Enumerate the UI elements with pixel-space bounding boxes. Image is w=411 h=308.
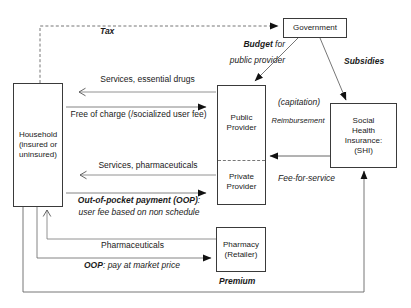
node-household: Household (insured or uninsured) (13, 83, 63, 207)
edge-label-subsidies: Subsidies (344, 57, 384, 67)
node-provider: Public Provider Private Provider (217, 85, 266, 205)
edge-label-free-of-charge: Free of charge (/socialized user fee) (62, 110, 215, 120)
node-government: Government (283, 18, 347, 38)
edge-label-pharmaceuticals: Pharmaceuticals (85, 241, 180, 251)
edge-label-budget: Budget for (215, 40, 285, 50)
edge-label-oop-payment: Out-of-pocket payment (OOP): (66, 196, 212, 206)
edge-label-oop-market-rest: : pay at market price (103, 260, 180, 270)
edge-label-oop-payment-rest: : (198, 195, 200, 205)
edge-label-premium: Premium (219, 277, 255, 287)
edge-subsidies-arrow (320, 38, 346, 100)
edge-label-budget-rest: for (273, 39, 285, 49)
edge-label-capitation: (capitation) (270, 98, 328, 108)
edge-label-services-essential-drugs: Services, essential drugs (75, 75, 220, 85)
node-private-provider: Private Provider (218, 160, 265, 204)
edge-label-user-fee: user fee based on non schedule (66, 208, 212, 218)
flow-diagram: Household (insured or uninsured) Governm… (0, 0, 411, 308)
edge-label-public-provider: public provider (211, 56, 285, 66)
edge-label-tax: Tax (100, 27, 114, 37)
edge-label-oop-payment-bold: Out-of-pocket payment (OOP) (78, 195, 198, 205)
edge-premium-arrow (23, 171, 364, 292)
edge-label-budget-bold: Budget (243, 39, 272, 49)
node-pharmacy: Pharmacy (Retailer) (216, 227, 266, 272)
node-social-health-insurance: Social Health Insurance: (SHI) (330, 103, 397, 168)
edge-label-fee-for-service: Fee-for-service (278, 174, 335, 184)
edge-label-oop-market-bold: OOP (84, 260, 103, 270)
edge-label-services-pharmaceuticals: Services, pharmaceuticals (78, 161, 218, 171)
edge-label-reimbursement: Reimbursement (266, 117, 330, 126)
node-public-provider: Public Provider (218, 86, 265, 160)
edge-label-oop-market: OOP: pay at market price (84, 261, 180, 271)
